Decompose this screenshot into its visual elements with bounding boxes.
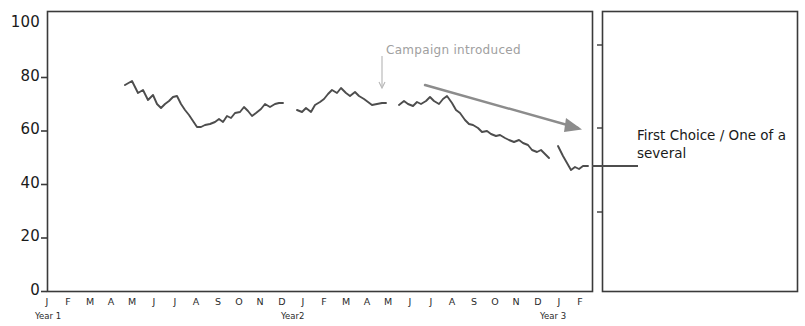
chart-page: 100 80 60 40 20 0 J F M A M J J A S O N …	[0, 0, 805, 326]
trend-arrow	[425, 85, 582, 132]
campaign-pointer-arrow	[379, 56, 385, 88]
chart-canvas	[0, 0, 805, 326]
data-line-segment-3	[399, 96, 549, 158]
plot-frame	[48, 12, 593, 292]
data-line-segment-2	[297, 88, 386, 112]
data-series-first-choice	[125, 81, 588, 170]
legend-panel-frame	[603, 12, 798, 292]
data-line-segment-4	[558, 146, 588, 170]
legend-panel-ticks	[597, 45, 602, 212]
y-axis-ticks	[41, 78, 47, 292]
data-line-segment-1	[125, 81, 283, 127]
